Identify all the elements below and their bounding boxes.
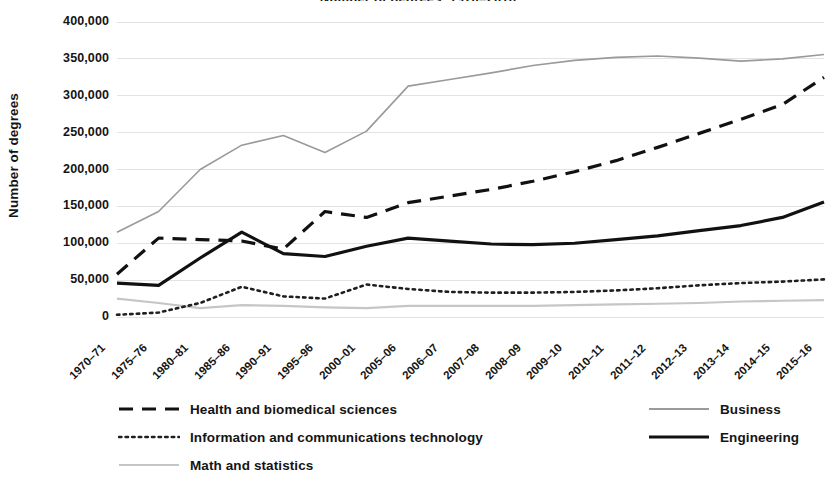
legend-line-swatch-icon <box>118 402 180 416</box>
legend-item[interactable]: Business <box>648 398 781 420</box>
legend-label: Business <box>720 402 781 417</box>
y-tick-label: 200,000 <box>13 162 109 176</box>
legend-item[interactable]: Information and communications technolog… <box>118 426 483 448</box>
legend-label: Information and communications technolog… <box>190 430 483 445</box>
legend-item[interactable]: Math and statistics <box>118 454 313 476</box>
legend-label: Health and biomedical sciences <box>190 402 397 417</box>
legend-item[interactable]: Health and biomedical sciences <box>118 398 397 420</box>
y-tick-label: 400,000 <box>13 14 109 28</box>
series-line-math-and-statistics <box>117 299 824 309</box>
y-tick-label: 250,000 <box>13 125 109 139</box>
legend-line-swatch-icon <box>118 458 180 472</box>
gridlines <box>117 22 824 317</box>
series-lines <box>117 54 824 314</box>
y-tick-label: 300,000 <box>13 88 109 102</box>
legend-item[interactable]: Engineering <box>648 426 799 448</box>
legend-label: Math and statistics <box>190 458 313 473</box>
legend-line-swatch-icon <box>648 402 710 416</box>
y-tick-label: 350,000 <box>13 51 109 65</box>
series-line-business <box>117 54 824 232</box>
series-line-information-and-communications-technology <box>117 279 824 314</box>
legend-line-swatch-icon <box>648 430 710 444</box>
degrees-by-field-line-chart: Number of degrees, 1970–2016 Number of d… <box>0 0 836 484</box>
chart-legend: Health and biomedical sciencesInformatio… <box>0 398 836 478</box>
y-tick-label: 0 <box>13 309 109 323</box>
y-tick-label: 100,000 <box>13 235 109 249</box>
legend-label: Engineering <box>720 430 799 445</box>
y-tick-label: 150,000 <box>13 198 109 212</box>
legend-line-swatch-icon <box>118 430 180 444</box>
y-tick-label: 50,000 <box>13 272 109 286</box>
